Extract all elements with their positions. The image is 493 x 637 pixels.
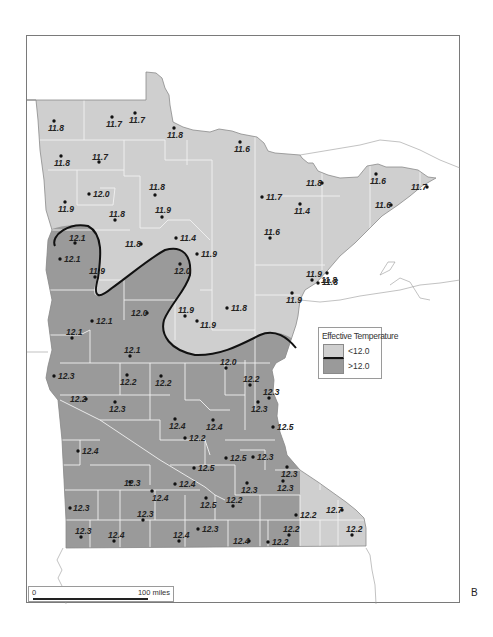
- station-value-label: 12.4: [233, 536, 250, 546]
- station-dot: [153, 193, 156, 196]
- station-value-label: 12.3: [241, 485, 258, 495]
- legend-swatch-low: [323, 344, 344, 359]
- legend-swatch-high: [323, 359, 344, 374]
- station-value-label: 12.4: [179, 479, 196, 489]
- station-value-label: 11.7: [411, 182, 428, 192]
- station-value-label: 11.8: [48, 123, 64, 133]
- scale-bar-line: [33, 598, 148, 600]
- station-value-label: 12.2: [283, 524, 300, 534]
- station-value-label: 12.4: [169, 421, 186, 431]
- station-point: 11.6: [375, 200, 393, 210]
- station-value-label: 12.2: [243, 374, 260, 384]
- station-value-label: 11.8: [125, 239, 141, 249]
- station-point: 11.7: [411, 182, 429, 192]
- station-dot: [192, 466, 195, 469]
- station-dot: [224, 456, 227, 459]
- station-value-label: 11.9: [286, 295, 302, 305]
- station-value-label: 12.2: [272, 537, 289, 547]
- panel-letter: B: [471, 587, 478, 598]
- station-dot: [90, 319, 93, 322]
- legend-label-high: >12.0: [348, 361, 370, 371]
- legend-label-low: <12.0: [348, 346, 370, 356]
- station-dot: [196, 527, 199, 530]
- station-value-label: 12.3: [251, 404, 268, 414]
- station-value-label: 12.3: [263, 387, 280, 397]
- station-value-label: 12.3: [124, 478, 141, 488]
- station-value-label: 12.2: [70, 394, 87, 404]
- station-value-label: 12.3: [277, 483, 294, 493]
- station-value-label: 12.0: [131, 308, 148, 318]
- station-dot: [58, 257, 61, 260]
- station-value-label: 12.2: [189, 433, 206, 443]
- minnesota-map: 11.811.711.711.811.611.811.712.011.811.9…: [0, 0, 493, 637]
- station-value-label: 11.8: [109, 209, 125, 219]
- station-value-label: 12.4: [206, 422, 223, 432]
- station-value-label: 11.8: [231, 303, 247, 313]
- station-dot: [160, 215, 163, 218]
- station-value-label: 12.1: [64, 254, 81, 264]
- station-value-label: 11.8: [149, 182, 165, 192]
- station-point: 12.3: [124, 478, 141, 488]
- station-value-label: 11.6: [370, 176, 386, 186]
- station-value-label: 11.9: [89, 266, 105, 276]
- station-value-label: 11.9: [200, 320, 216, 330]
- station-value-label: 12.2: [120, 377, 137, 387]
- station-dot: [195, 252, 198, 255]
- station-dot: [316, 281, 319, 284]
- station-value-label: 12.3: [202, 524, 219, 534]
- station-dot: [183, 436, 186, 439]
- station-value-label: 12.1: [66, 327, 83, 337]
- station-value-label: 12.3: [73, 503, 90, 513]
- station-value-label: 11.8: [54, 158, 70, 168]
- station-dot: [173, 482, 176, 485]
- station-value-label: 12.5: [198, 463, 215, 473]
- station-point: 11.8: [306, 178, 324, 188]
- station-point: 12.1: [69, 233, 86, 245]
- station-value-label: 12.1: [69, 233, 86, 243]
- station-value-label: 12.3: [75, 526, 92, 536]
- station-value-label: 12.2: [226, 495, 243, 505]
- station-dot: [195, 319, 198, 322]
- station-dot: [271, 425, 274, 428]
- station-value-label: 12.5: [200, 500, 217, 510]
- station-value-label: 12.3: [58, 371, 75, 381]
- station-dot: [87, 192, 90, 195]
- station-value-label: 11.8: [306, 178, 322, 188]
- station-value-label: 12.1: [124, 345, 141, 355]
- station-dot: [76, 449, 79, 452]
- station-point: 12.4: [233, 536, 251, 546]
- legend: Effective Temperature <12.0 >12.0: [318, 327, 382, 379]
- station-value-label: 12.7: [326, 505, 344, 515]
- station-value-label: 12.3: [109, 404, 126, 414]
- station-point: 12.2: [70, 394, 88, 404]
- legend-title: Effective Temperature: [322, 331, 398, 341]
- station-value-label: 11.6: [234, 144, 250, 154]
- station-value-label: 11.6: [264, 227, 280, 237]
- station-value-label: 11.7: [129, 115, 146, 125]
- station-dot: [260, 195, 263, 198]
- station-dot: [174, 236, 177, 239]
- station-point: 12.0: [131, 308, 149, 318]
- station-value-label: 12.2: [155, 378, 172, 388]
- station-value-label: 11.8: [322, 277, 338, 287]
- station-value-label: 12.2: [346, 524, 363, 534]
- scale-bar: 0 100 miles: [28, 586, 174, 602]
- station-value-label: 12.4: [82, 446, 99, 456]
- station-value-label: 11.4: [180, 233, 196, 243]
- station-dot: [52, 374, 55, 377]
- station-value-label: 12.0: [93, 189, 110, 199]
- station-dot: [266, 540, 269, 543]
- station-dot: [225, 306, 228, 309]
- station-point: 12.7: [326, 505, 344, 515]
- station-value-label: 11.9: [306, 269, 322, 279]
- station-value-label: 12.5: [277, 422, 294, 432]
- station-value-label: 11.9: [58, 204, 74, 214]
- station-value-label: 11.7: [266, 192, 283, 202]
- station-dot: [251, 455, 254, 458]
- station-value-label: 12.4: [152, 493, 169, 503]
- station-point: 11.7: [92, 152, 109, 164]
- station-value-label: 12.0: [220, 357, 237, 367]
- station-point: 11.8: [125, 239, 143, 249]
- station-value-label: 11.7: [92, 152, 109, 162]
- station-value-label: 12.0: [174, 266, 191, 276]
